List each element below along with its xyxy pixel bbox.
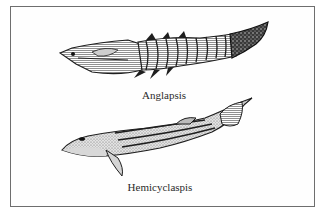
label-hemicyclaspis: Hemicyclaspis <box>128 181 193 193</box>
anglapsis-drawing <box>60 22 268 79</box>
label-anglapsis: Anglapsis <box>142 89 186 101</box>
hemicyclaspis-drawing <box>62 98 252 176</box>
